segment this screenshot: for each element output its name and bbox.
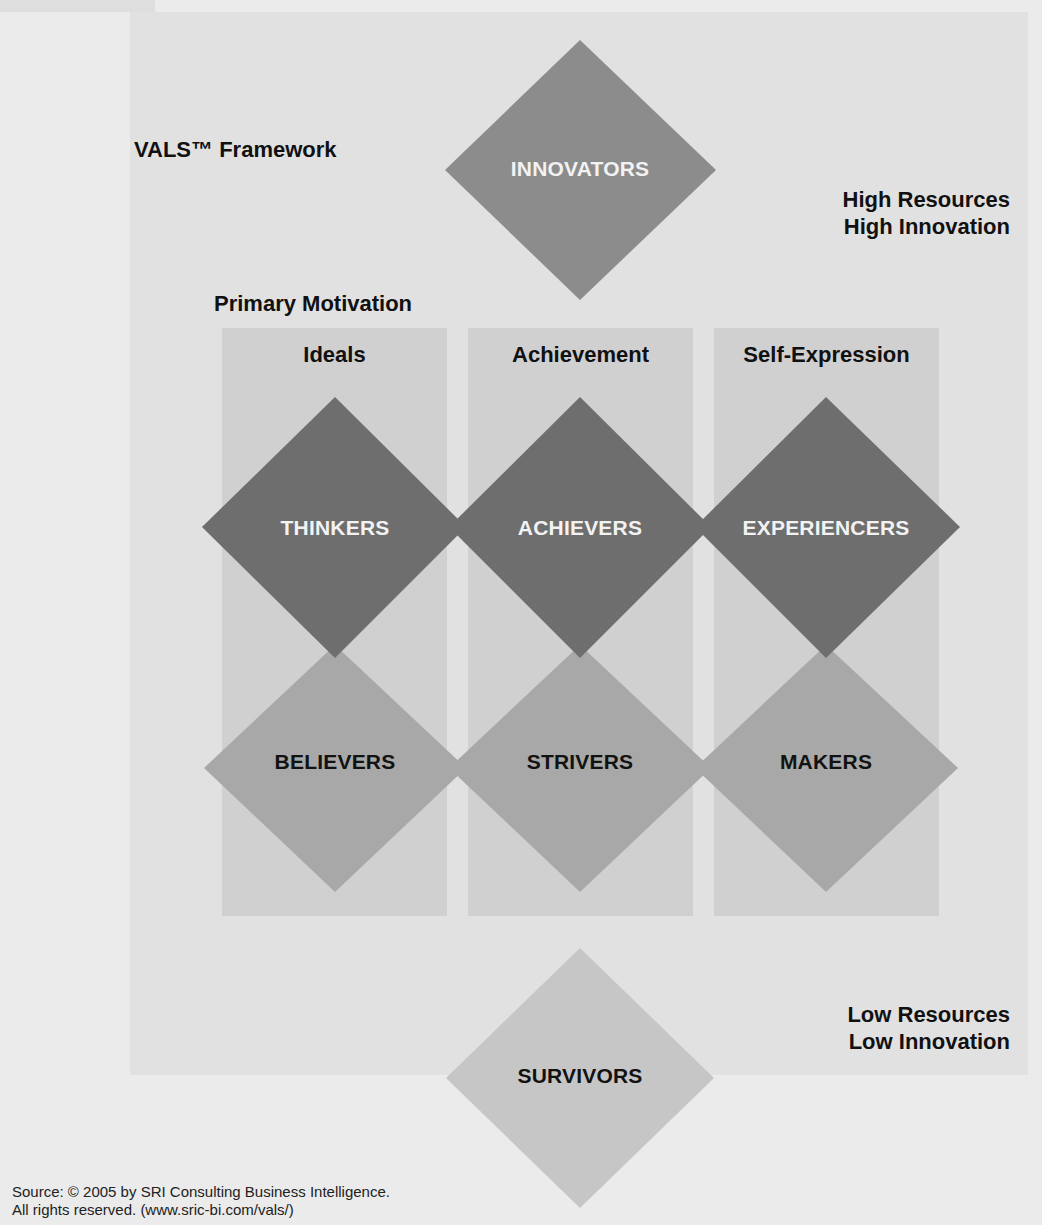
high-resources-line: High Resources bbox=[843, 186, 1011, 213]
low-resources-label: Low Resources Low Innovation bbox=[847, 1001, 1010, 1055]
believers-label: BELIEVERS bbox=[215, 750, 455, 774]
low-innovation-line: Low Innovation bbox=[847, 1028, 1010, 1055]
source-line-1: Source: © 2005 by SRI Consulting Busines… bbox=[12, 1183, 390, 1201]
survivors-label: SURVIVORS bbox=[460, 1064, 700, 1088]
source-line-2: All rights reserved. (www.sric-bi.com/va… bbox=[12, 1201, 390, 1219]
high-resources-label: High Resources High Innovation bbox=[843, 186, 1011, 240]
low-resources-line: Low Resources bbox=[847, 1001, 1010, 1028]
makers-label: MAKERS bbox=[706, 750, 946, 774]
innovators-label: INNOVATORS bbox=[460, 157, 700, 181]
experiencers-label: EXPERIENCERS bbox=[706, 516, 946, 540]
thinkers-label: THINKERS bbox=[215, 516, 455, 540]
framework-title: VALS™ Framework bbox=[134, 136, 337, 163]
primary-motivation-label: Primary Motivation bbox=[214, 290, 412, 317]
achievers-label: ACHIEVERS bbox=[460, 516, 700, 540]
high-innovation-line: High Innovation bbox=[843, 213, 1011, 240]
source-credit: Source: © 2005 by SRI Consulting Busines… bbox=[12, 1183, 390, 1219]
strivers-label: STRIVERS bbox=[460, 750, 700, 774]
